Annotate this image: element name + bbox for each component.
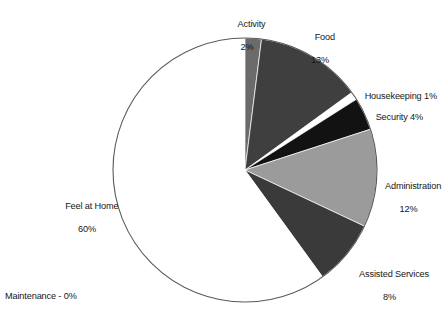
slice-label-administration-name: Administration [385,181,441,191]
slice-label-activity-name: Activity [238,19,266,29]
slice-label-assisted-services-name: Assisted Services [359,269,429,279]
pie-chart: Activity 2% Food 13% Housekeeping 1% Sec… [0,0,445,313]
slice-label-assisted-services-value: 8% [339,292,440,303]
zero-value-legend: Maintenance - 0% Staff - 0% Amenities - … [5,258,77,313]
slice-label-feel-at-home-name: Feel at Home [65,201,118,211]
slice-label-security: Security 4% [366,101,445,135]
slice-label-housekeeping-text: Housekeeping 1% [365,91,437,101]
slice-label-activity-value: 2% [206,42,288,53]
slice-label-food: Food 13% [287,21,353,89]
slice-label-feel-at-home: Feel at Home 60% [44,190,130,258]
slice-label-food-name: Food [315,32,335,42]
slice-label-security-text: Security 4% [376,112,423,122]
zero-item-maintenance: Maintenance - 0% [5,289,77,305]
slice-label-activity: Activity 2% [206,8,288,76]
slice-label-administration-value: 12% [372,204,445,215]
slice-label-food-value: 13% [287,55,353,66]
slice-label-feel-at-home-value: 60% [44,224,130,235]
slice-label-assisted-services: Assisted Services 8% [339,258,440,313]
slice-label-administration: Administration 12% [372,170,445,238]
